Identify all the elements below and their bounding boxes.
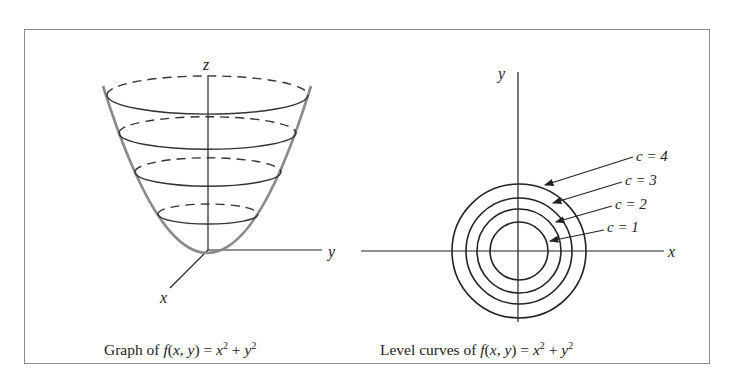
arrow-c4 (545, 157, 633, 185)
level-label-c1: c = 1 (607, 219, 639, 235)
figure-graphics: z y x c = 4 c = 3 c = 2 c = 1 y x (0, 0, 732, 389)
caption-x: x (216, 341, 223, 358)
caption-eq: = (516, 341, 533, 358)
x-axis-label: x (159, 289, 167, 306)
level-label-c4: c = 4 (636, 148, 668, 164)
caption-x: x (533, 341, 540, 358)
y-axis-label: y (326, 243, 336, 261)
caption-plus: + (545, 341, 562, 358)
arrow-c2 (556, 206, 612, 222)
paraboloid-graph: z y x (103, 56, 336, 306)
arrow-c3 (553, 182, 622, 203)
caption-plus: + (228, 341, 245, 358)
level-curves-plot: c = 4 c = 3 c = 2 c = 1 y x (361, 65, 675, 322)
caption-exp: 2 (568, 340, 573, 351)
caption-eq: = (200, 341, 217, 358)
x-axis-label: x (667, 243, 675, 260)
level-label-c3: c = 3 (625, 172, 657, 188)
caption-prefix: Level curves of (380, 341, 480, 358)
x-axis (170, 250, 208, 288)
caption-args: (x, y) (168, 341, 200, 358)
level-label-c2: c = 2 (615, 196, 647, 212)
caption-exp: 2 (251, 340, 256, 351)
caption-prefix: Graph of (104, 341, 163, 358)
y-axis-label: y (496, 65, 506, 83)
right-caption: Level curves of f(x, y) = x2 + y2 (380, 340, 573, 359)
z-axis-label: z (202, 56, 210, 73)
caption-args: (x, y) (485, 341, 517, 358)
left-caption: Graph of f(x, y) = x2 + y2 (104, 340, 256, 359)
